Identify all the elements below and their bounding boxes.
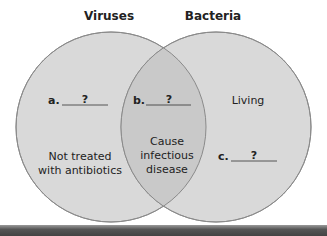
venn-diagram: Viruses Bacteria a. ? b. ? Living Not tr… — [0, 0, 327, 236]
not-treated-line2: with antibiotics — [38, 164, 122, 177]
item-c-blank[interactable]: ? — [251, 149, 257, 162]
viruses-heading: Viruses — [84, 9, 134, 23]
item-a-label: a. — [48, 94, 60, 107]
item-a-blank[interactable]: ? — [82, 93, 88, 106]
overlap-line3: disease — [146, 163, 188, 176]
overlap-line1: Cause — [150, 135, 184, 148]
bottom-bar — [0, 225, 327, 236]
item-b-label: b. — [133, 94, 145, 107]
living-text: Living — [232, 94, 265, 107]
not-treated-line1: Not treated — [49, 150, 112, 163]
overlap-line2: infectious — [140, 149, 194, 162]
item-c-label: c. — [218, 150, 229, 163]
bacteria-heading: Bacteria — [185, 9, 241, 23]
item-b-blank[interactable]: ? — [166, 93, 172, 106]
